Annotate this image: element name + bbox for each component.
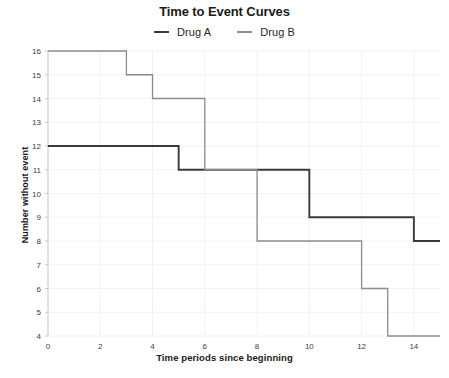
y-tick-label: 4 [37,332,42,341]
x-tick-label: 0 [46,342,51,351]
y-tick-label: 16 [32,47,41,56]
y-tick-label: 13 [32,118,41,127]
y-tick-label: 9 [37,213,42,222]
x-tick-label: 4 [150,342,155,351]
x-tick-label: 14 [409,342,418,351]
time-to-event-chart: Time to Event Curves Drug A Drug B 45678… [0,0,449,378]
y-tick-label: 10 [32,190,41,199]
x-tick-label: 10 [305,342,314,351]
y-tick-label: 12 [32,142,41,151]
x-axis-label: Time periods since beginning [0,352,449,363]
plot-area: 4567891011121314151602468101214 [0,0,449,378]
y-tick-label: 8 [37,237,42,246]
x-tick-label: 8 [255,342,260,351]
x-tick-label: 2 [98,342,103,351]
y-tick-label: 15 [32,71,41,80]
y-tick-label: 5 [37,308,42,317]
y-tick-label: 14 [32,95,41,104]
y-axis-label: Number without event [20,115,30,275]
y-tick-label: 6 [37,285,42,294]
y-tick-label: 11 [33,166,42,175]
x-tick-label: 6 [203,342,208,351]
x-tick-label: 12 [357,342,366,351]
y-tick-label: 7 [37,261,42,270]
